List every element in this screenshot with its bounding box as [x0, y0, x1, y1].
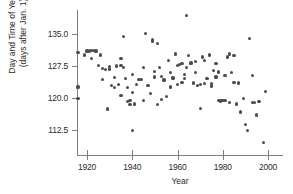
data-point [131, 129, 134, 132]
data-point [251, 74, 254, 77]
scatter-plot-figure: 112.5120.0127.5135.0 1920194019601980200… [0, 0, 293, 194]
data-point [246, 129, 249, 132]
data-point [144, 32, 147, 35]
data-point [160, 98, 163, 101]
data-point [131, 91, 134, 94]
data-point [128, 103, 131, 106]
data-point [210, 84, 213, 87]
data-point [228, 101, 231, 104]
data-point [76, 85, 79, 88]
data-point [122, 35, 125, 38]
data-point [214, 75, 217, 78]
data-point [187, 54, 190, 57]
data-point [119, 57, 122, 60]
data-point [237, 81, 240, 84]
data-point [185, 66, 188, 69]
data-point [122, 66, 125, 69]
y-axis-title-line-2: (days after Jan. 1) [18, 0, 29, 103]
data-point [83, 53, 86, 56]
data-point [99, 53, 102, 56]
data-point [113, 86, 116, 89]
plot-data-area [0, 0, 293, 194]
data-point [199, 107, 202, 110]
data-point [192, 81, 195, 84]
data-point [106, 107, 109, 110]
x-axis-title: Year [77, 176, 283, 186]
data-point [185, 14, 188, 17]
data-point [212, 69, 215, 72]
data-point [217, 70, 220, 73]
data-point [169, 71, 172, 74]
data-point [189, 61, 192, 64]
data-point [142, 66, 145, 69]
data-point [203, 82, 206, 85]
data-point [169, 85, 172, 88]
data-point [133, 102, 136, 105]
data-point [90, 57, 93, 60]
data-point [124, 77, 127, 80]
data-point [156, 103, 159, 106]
data-point [232, 54, 235, 57]
data-point [242, 97, 245, 100]
data-point [228, 52, 231, 55]
data-point [101, 78, 104, 81]
data-point [113, 76, 116, 79]
data-point [97, 64, 100, 67]
data-point [176, 83, 179, 86]
data-point [149, 92, 152, 95]
data-point [180, 81, 183, 84]
data-point [76, 51, 79, 54]
data-point [126, 86, 129, 89]
y-axis-title-line-1: Day and Time of Year [7, 0, 18, 103]
data-point [151, 38, 154, 41]
data-point [160, 75, 163, 78]
data-point [167, 59, 170, 62]
data-point [235, 102, 238, 105]
data-point [253, 101, 256, 104]
data-point [119, 94, 122, 97]
data-point [223, 99, 226, 102]
data-point [153, 70, 156, 73]
data-point [226, 55, 229, 58]
data-point [146, 84, 149, 87]
data-point [239, 110, 242, 113]
data-point [174, 52, 177, 55]
data-point [199, 83, 202, 86]
data-point [230, 71, 233, 74]
data-point [255, 113, 258, 116]
data-point [232, 81, 235, 84]
data-point [183, 77, 186, 80]
data-point [94, 49, 97, 52]
data-point [194, 71, 197, 74]
data-point [76, 97, 79, 100]
data-point [104, 68, 107, 71]
data-point [165, 95, 168, 98]
data-point [153, 75, 156, 78]
data-point [214, 62, 217, 65]
y-axis-title: Day and Time of Year (days after Jan. 1) [7, 0, 29, 103]
data-point [205, 77, 208, 80]
data-point [262, 141, 265, 144]
data-point [183, 73, 186, 76]
data-point [117, 83, 120, 86]
data-point [128, 99, 131, 102]
data-point [180, 62, 183, 65]
data-point [162, 78, 165, 81]
data-point [244, 123, 247, 126]
data-point [158, 66, 161, 69]
data-point [248, 37, 251, 40]
data-point [131, 73, 134, 76]
data-point [264, 90, 267, 93]
data-point [171, 76, 174, 79]
data-point [194, 60, 197, 63]
data-point [208, 53, 211, 56]
data-point [142, 99, 145, 102]
data-point [140, 78, 143, 81]
data-point [257, 100, 260, 103]
data-point [203, 59, 206, 62]
data-point [135, 83, 138, 86]
data-point [108, 67, 111, 70]
data-point [115, 64, 118, 67]
data-point [156, 42, 159, 45]
data-point [223, 74, 226, 77]
